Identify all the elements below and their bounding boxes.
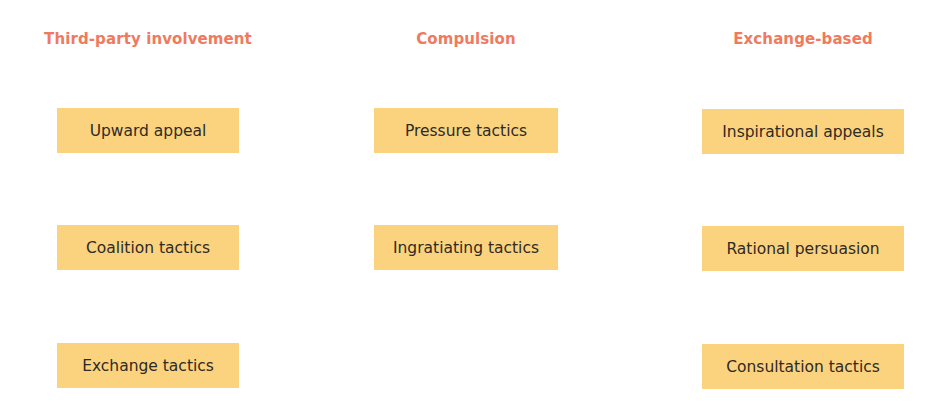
tactic-box-inspirational-appeals: Inspirational appeals bbox=[702, 109, 904, 154]
tactic-box-ingratiating-tactics: Ingratiating tactics bbox=[374, 225, 558, 270]
tactic-box-upward-appeal: Upward appeal bbox=[57, 108, 239, 153]
column-header-compulsion: Compulsion bbox=[366, 28, 566, 50]
tactic-box-rational-persuasion: Rational persuasion bbox=[702, 226, 904, 271]
tactic-box-exchange-tactics: Exchange tactics bbox=[57, 343, 239, 388]
column-header-third-party: Third-party involvement bbox=[28, 28, 268, 50]
tactic-box-coalition-tactics: Coalition tactics bbox=[57, 225, 239, 270]
tactic-box-pressure-tactics: Pressure tactics bbox=[374, 108, 558, 153]
tactic-box-consultation-tactics: Consultation tactics bbox=[702, 344, 904, 389]
column-header-exchange-based: Exchange-based bbox=[703, 28, 903, 50]
